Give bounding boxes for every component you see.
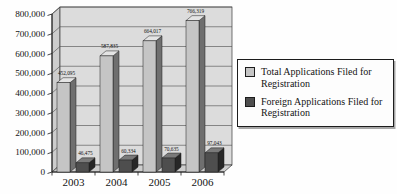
bar-value-foreign-2003: 46,475 bbox=[78, 150, 93, 156]
ytick-label: 800,000 bbox=[15, 9, 45, 19]
bar-value-foreign-2005: 70,635 bbox=[164, 146, 179, 152]
figure: 0100,000200,000300,000400,000500,000600,… bbox=[0, 0, 397, 194]
ytick-label: 300,000 bbox=[15, 108, 45, 118]
legend-item-foreign: Foreign Applications Filed for Registrat… bbox=[245, 96, 386, 120]
y-tick bbox=[48, 93, 53, 95]
bar-value-total-2004: 587,835 bbox=[101, 43, 119, 49]
bar-value-total-2006: 766,319 bbox=[187, 8, 205, 14]
bar-side-total-2006 bbox=[199, 16, 205, 172]
bar-side-total-2005 bbox=[156, 36, 162, 172]
ytick-label: 700,000 bbox=[15, 29, 45, 39]
bar-chart: 0100,000200,000300,000400,000500,000600,… bbox=[0, 0, 240, 194]
bar-side-total-2003 bbox=[70, 78, 76, 172]
bar-total-2003 bbox=[57, 83, 70, 172]
bar-total-2005 bbox=[143, 41, 156, 172]
bar-foreign-2006 bbox=[205, 153, 218, 172]
xtick-label-2003: 2003 bbox=[63, 176, 86, 188]
bar-total-2006 bbox=[186, 21, 199, 172]
legend-label-foreign: Foreign Applications Filed for Registrat… bbox=[261, 96, 386, 120]
ytick-label: 400,000 bbox=[15, 88, 45, 98]
ytick-label: 0 bbox=[40, 167, 45, 177]
ytick-label: 100,000 bbox=[15, 147, 45, 157]
xtick-label-2005: 2005 bbox=[149, 176, 172, 188]
legend-swatch-foreign bbox=[245, 97, 255, 107]
bar-foreign-2004 bbox=[119, 160, 132, 172]
xtick-label-2004: 2004 bbox=[106, 176, 129, 188]
bar-value-total-2005: 664,017 bbox=[144, 28, 162, 34]
legend-item-total: Total Applications Filed for Registratio… bbox=[245, 66, 386, 90]
legend-label-total: Total Applications Filed for Registratio… bbox=[261, 66, 386, 90]
y-tick bbox=[48, 73, 53, 75]
ytick-label: 200,000 bbox=[15, 128, 45, 138]
xtick-label-2006: 2006 bbox=[192, 176, 215, 188]
y-tick bbox=[48, 54, 53, 56]
ytick-label: 500,000 bbox=[15, 68, 45, 78]
bar-side-total-2004 bbox=[113, 51, 119, 172]
y-tick bbox=[48, 34, 53, 36]
bar-value-foreign-2006: 97,043 bbox=[207, 140, 222, 146]
y-tick bbox=[48, 14, 53, 16]
bar-foreign-2005 bbox=[162, 158, 175, 172]
bar-value-foreign-2004: 60,334 bbox=[121, 148, 136, 154]
bar-foreign-2003 bbox=[76, 163, 89, 172]
legend-swatch-total bbox=[245, 67, 255, 77]
y-tick bbox=[48, 172, 53, 174]
y-tick bbox=[48, 113, 53, 115]
y-tick bbox=[48, 133, 53, 135]
legend: Total Applications Filed for Registratio… bbox=[237, 59, 394, 127]
bar-total-2004 bbox=[100, 56, 113, 172]
ytick-label: 600,000 bbox=[15, 49, 45, 59]
bar-value-total-2003: 452,095 bbox=[58, 70, 76, 76]
y-tick bbox=[48, 152, 53, 154]
